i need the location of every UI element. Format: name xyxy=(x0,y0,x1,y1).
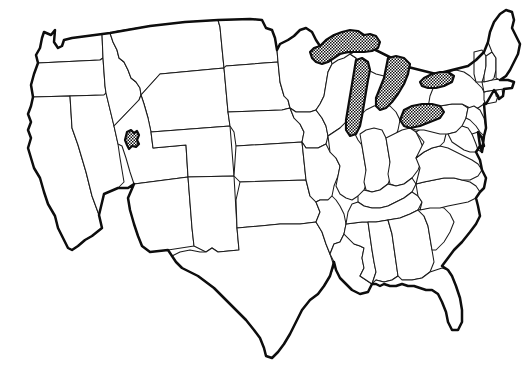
us-map-svg: Washington Oregon California Nevada Idah… xyxy=(0,0,523,370)
state-ks[interactable]: Kansas xyxy=(234,142,306,182)
state-or[interactable]: Oregon xyxy=(31,58,106,97)
state-nm[interactable]: New Mexico xyxy=(188,176,239,252)
great-salt-lake: Great Salt Lake xyxy=(125,130,139,149)
us-outline-map-figure: Washington Oregon California Nevada Idah… xyxy=(0,0,523,370)
state-nh[interactable]: New Hampshire xyxy=(484,52,496,82)
